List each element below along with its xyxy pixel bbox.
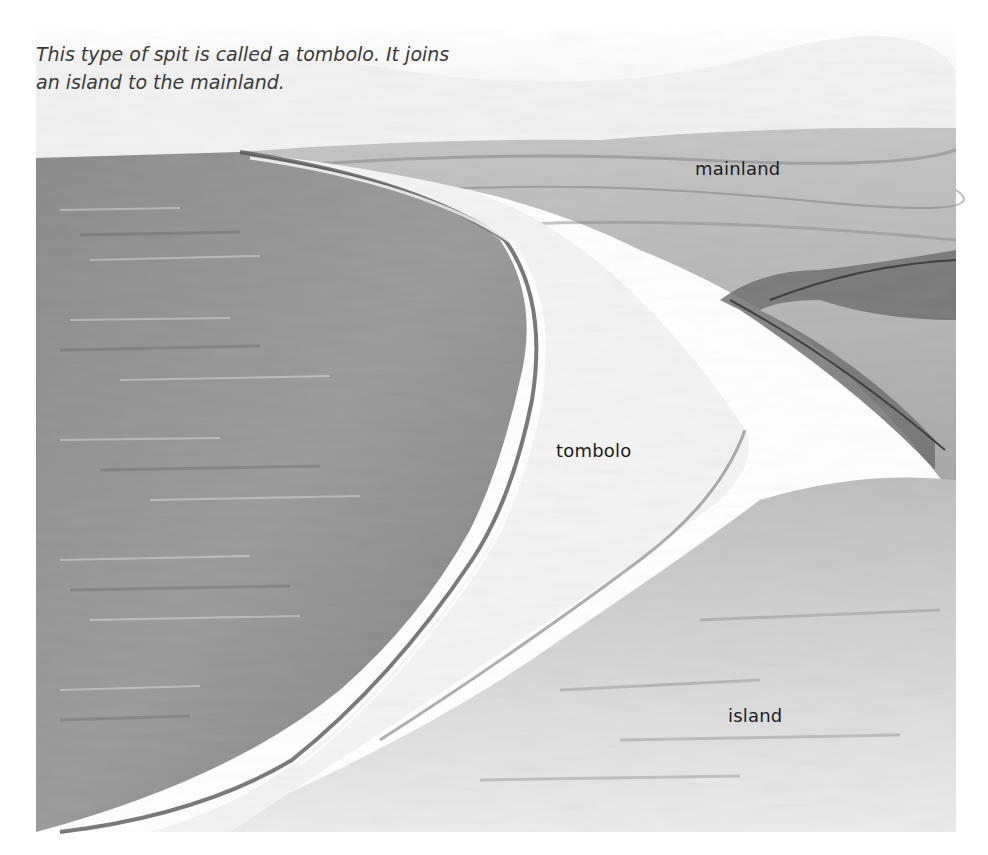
caption-line-2: an island to the mainland. (36, 68, 516, 96)
label-tombolo: tombolo (556, 440, 631, 461)
caption-line-1: This type of spit is called a tombolo. I… (36, 40, 516, 68)
label-island: island (728, 705, 782, 726)
label-mainland: mainland (695, 158, 780, 179)
tombolo-illustration (0, 0, 988, 855)
caption: This type of spit is called a tombolo. I… (36, 40, 516, 96)
